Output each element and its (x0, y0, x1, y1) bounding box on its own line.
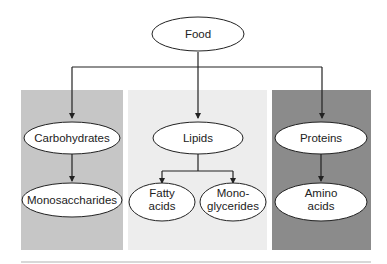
connectors (72, 52, 322, 183)
node-food-label: Food (185, 28, 211, 40)
node-monoglycerides: Mono- glycerides (200, 183, 266, 221)
node-fatty-acids-line2: acids (149, 200, 176, 212)
node-monoglycerides-line2: glycerides (207, 200, 259, 212)
node-carbohydrates-label: Carbohydrates (34, 132, 110, 144)
node-monosaccharides-label: Monosaccharides (27, 194, 117, 206)
node-carbohydrates: Carbohydrates (24, 122, 120, 154)
node-monosaccharides: Monosaccharides (22, 183, 122, 217)
node-lipids: Lipids (153, 122, 243, 154)
node-amino-acids: Amino acids (275, 183, 367, 221)
node-fatty-acids: Fatty acids (129, 183, 195, 221)
node-fatty-acids-line1: Fatty (149, 187, 175, 199)
node-proteins-label: Proteins (300, 132, 342, 144)
node-food: Food (152, 17, 244, 51)
node-proteins: Proteins (275, 122, 367, 154)
node-monoglycerides-line1: Mono- (217, 187, 250, 199)
digestion-diagram: Food Carbohydrates Monosaccharides Lipid… (0, 0, 387, 264)
node-amino-acids-line1: Amino (305, 187, 338, 199)
node-lipids-label: Lipids (183, 132, 213, 144)
node-amino-acids-line2: acids (308, 200, 335, 212)
